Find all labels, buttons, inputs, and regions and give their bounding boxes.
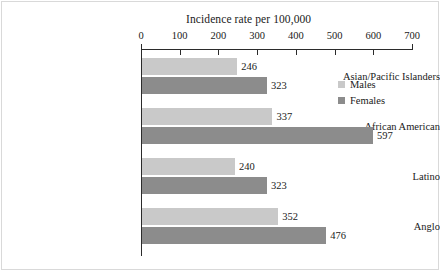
bar-value-females-1: 597 (377, 130, 393, 141)
bar-females-1 (142, 127, 373, 144)
x-tick-label-100: 100 (165, 30, 195, 41)
bar-females-2 (142, 177, 267, 194)
x-tick-400 (296, 50, 297, 55)
legend-item-females: Females (338, 94, 428, 107)
bar-males-2 (142, 158, 235, 175)
legend-label-females: Females (350, 95, 385, 106)
legend-item-males: Males (338, 78, 428, 91)
x-tick-300 (257, 50, 258, 55)
x-tick-600 (373, 50, 374, 55)
legend-swatch-males (338, 81, 345, 88)
bar-males-0 (142, 58, 237, 75)
chart-legend: MalesFemales (338, 78, 428, 110)
bar-value-males-0: 246 (241, 61, 257, 72)
legend-swatch-females (338, 97, 345, 104)
x-tick-500 (335, 50, 336, 55)
bar-value-males-2: 240 (239, 161, 255, 172)
x-tick-label-300: 300 (242, 30, 272, 41)
legend-label-males: Males (350, 79, 376, 90)
chart-title: Incidence rate per 100,000 (186, 13, 311, 25)
x-tick-0 (141, 44, 142, 50)
x-tick-label-600: 600 (358, 30, 388, 41)
bar-value-males-1: 337 (276, 111, 292, 122)
bar-females-0 (142, 77, 267, 94)
horizontal-bar-chart: Incidence rate per 100,000 0100200300400… (0, 0, 440, 271)
x-tick-label-0: 0 (126, 30, 156, 41)
x-tick-label-700: 700 (397, 30, 427, 41)
bar-males-1 (142, 108, 272, 125)
x-axis-line (141, 49, 413, 50)
x-tick-label-200: 200 (203, 30, 233, 41)
bar-value-males-3: 352 (282, 211, 298, 222)
x-tick-label-400: 400 (281, 30, 311, 41)
bar-value-females-0: 323 (271, 80, 287, 91)
x-tick-100 (180, 50, 181, 55)
bar-females-3 (142, 227, 326, 244)
bar-males-3 (142, 208, 278, 225)
bar-value-females-2: 323 (271, 180, 287, 191)
bar-value-females-3: 476 (330, 230, 346, 241)
x-tick-700 (412, 44, 413, 50)
category-label-2: Latino (304, 171, 440, 182)
x-tick-200 (218, 50, 219, 55)
chart-page: Incidence rate per 100,000 0100200300400… (0, 0, 440, 271)
x-tick-label-500: 500 (320, 30, 350, 41)
